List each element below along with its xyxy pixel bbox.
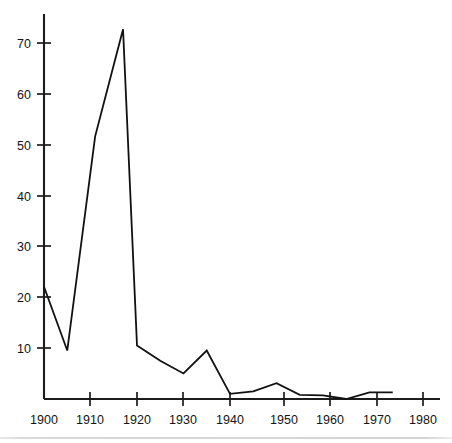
data-line-series-1 [44, 29, 393, 399]
y-tick-labels: 10 20 30 40 50 60 70 [17, 37, 31, 356]
axes-group [44, 14, 440, 399]
y-tick-label-60: 60 [17, 88, 31, 102]
x-tick-label-1920: 1920 [123, 413, 151, 427]
y-tick-label-20: 20 [17, 291, 31, 305]
x-tick-label-1950: 1950 [270, 413, 298, 427]
y-tick-label-30: 30 [17, 240, 31, 254]
chart-container: 10 20 30 40 50 60 70 1900 1910 1920 1930… [0, 0, 452, 443]
y-tick-label-40: 40 [17, 190, 31, 204]
footer-divider [0, 437, 452, 439]
x-tick-labels: 1900 1910 1920 1930 1940 1950 1960 1970 … [30, 413, 437, 427]
line-chart: 10 20 30 40 50 60 70 1900 1910 1920 1930… [0, 0, 452, 443]
x-tick-label-1900: 1900 [30, 413, 58, 427]
x-tick-label-1940: 1940 [216, 413, 244, 427]
y-tick-label-10: 10 [17, 342, 31, 356]
x-tick-label-1970: 1970 [363, 413, 391, 427]
x-tick-label-1910: 1910 [76, 413, 104, 427]
y-tick-label-50: 50 [17, 139, 31, 153]
x-tick-label-1930: 1930 [169, 413, 197, 427]
x-tick-label-1980: 1980 [409, 413, 437, 427]
y-tick-label-70: 70 [17, 37, 31, 51]
x-tick-label-1960: 1960 [316, 413, 344, 427]
